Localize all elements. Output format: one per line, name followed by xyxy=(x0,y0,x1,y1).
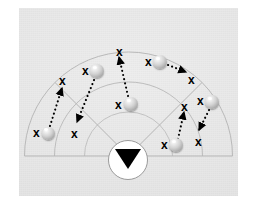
motion-arrow-1 xyxy=(50,88,62,126)
position-mark: x xyxy=(71,128,78,140)
target-ball-5 xyxy=(205,95,219,109)
motion-arrow-3 xyxy=(119,57,128,96)
position-mark: x xyxy=(116,46,123,58)
position-mark: x xyxy=(33,127,40,139)
position-mark: x xyxy=(82,65,89,77)
target-ball-6 xyxy=(169,138,183,152)
position-mark: x xyxy=(188,74,195,86)
target-ball-1 xyxy=(42,127,55,140)
target-ball-2 xyxy=(90,64,104,78)
position-mark: x xyxy=(181,101,188,113)
position-mark: x xyxy=(197,95,204,107)
observer-marker xyxy=(108,140,148,180)
target-ball-3 xyxy=(124,97,138,111)
triangle-down-icon xyxy=(115,149,141,169)
position-mark: x xyxy=(195,136,202,148)
diagram-canvas: xxxxxxxxxxxx xyxy=(0,0,257,203)
position-mark: x xyxy=(161,139,168,151)
position-mark: x xyxy=(59,75,66,87)
target-ball-4 xyxy=(153,55,167,69)
motion-arrow-5 xyxy=(199,110,209,130)
position-mark: x xyxy=(115,99,122,111)
motion-arrow-4 xyxy=(168,65,186,72)
motion-arrow-6 xyxy=(178,112,184,139)
position-mark: x xyxy=(145,56,152,68)
